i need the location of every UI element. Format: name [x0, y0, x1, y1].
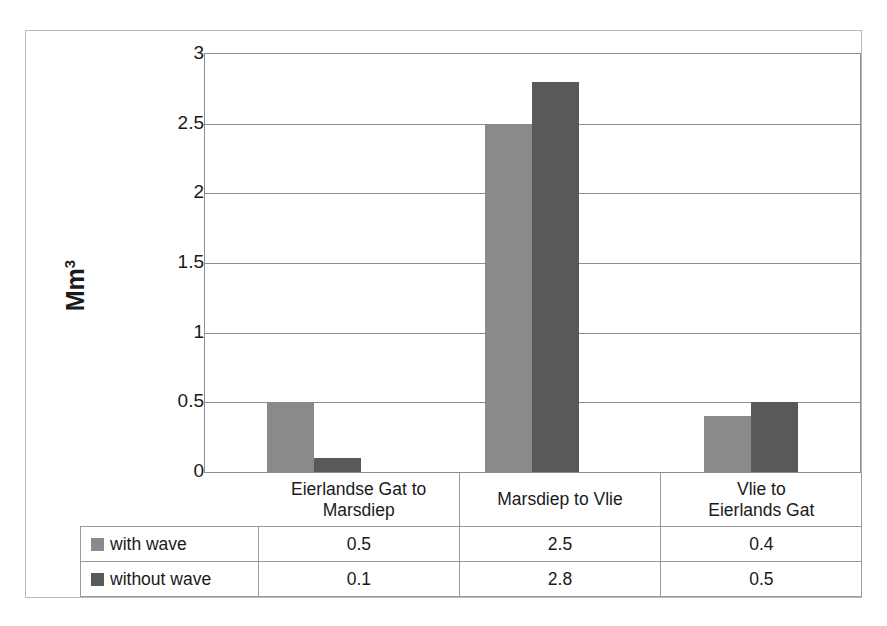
table-column-header: Marsdiep to Vlie — [459, 473, 660, 527]
y-axis-tick-label: 1.5 — [136, 252, 204, 272]
bar-group — [205, 54, 423, 472]
table-cell: 0.4 — [661, 527, 862, 562]
y-axis-title: Mm3 — [56, 221, 96, 351]
table-corner-cell — [81, 473, 259, 527]
y-axis-tick-labels: 00.511.522.53 — [136, 53, 204, 471]
y-axis-tick-label: 2 — [136, 182, 204, 202]
legend-label: with wave — [110, 534, 187, 554]
legend-entry[interactable]: with wave — [81, 527, 259, 562]
table-cell: 0.5 — [259, 527, 460, 562]
bars-layer — [205, 54, 860, 472]
table-cell: 0.1 — [259, 562, 460, 597]
legend-swatch-icon — [91, 538, 104, 551]
plot-area — [204, 53, 861, 473]
y-axis-tick-label: 1 — [136, 322, 204, 342]
bar — [485, 124, 532, 472]
y-axis-title-base: Mm — [62, 269, 90, 312]
bar — [267, 402, 314, 472]
bar-group — [642, 54, 860, 472]
table-column-header: Eierlandse Gat toMarsdiep — [259, 473, 460, 527]
table-cell: 0.5 — [661, 562, 862, 597]
y-axis-title-exponent: 3 — [61, 260, 78, 268]
table-cell: 2.5 — [459, 527, 660, 562]
y-axis-tick-label: 2.5 — [136, 113, 204, 133]
y-axis-tick-label: 0.5 — [136, 391, 204, 411]
data-table: Eierlandse Gat toMarsdiepMarsdiep to Vli… — [80, 473, 862, 597]
legend-entry[interactable]: without wave — [81, 562, 259, 597]
table-column-header: Vlie toEierlands Gat — [661, 473, 862, 527]
y-axis-title-text: Mm3 — [61, 260, 90, 311]
table-header-row: Eierlandse Gat toMarsdiepMarsdiep to Vli… — [81, 473, 862, 527]
data-table-body: Eierlandse Gat toMarsdiepMarsdiep to Vli… — [81, 473, 862, 597]
table-row: without wave0.12.80.5 — [81, 562, 862, 597]
bar — [314, 458, 361, 472]
chart-figure: Mm3 00.511.522.53 Eierlandse Gat toMarsd… — [25, 30, 862, 598]
bar — [751, 402, 798, 472]
table-row: with wave0.52.50.4 — [81, 527, 862, 562]
y-axis-tick-label: 3 — [136, 43, 204, 63]
legend-swatch-icon — [91, 573, 104, 586]
bar-group — [423, 54, 641, 472]
bar — [532, 82, 579, 472]
bar — [704, 416, 751, 472]
legend-label: without wave — [110, 569, 211, 589]
table-cell: 2.8 — [459, 562, 660, 597]
